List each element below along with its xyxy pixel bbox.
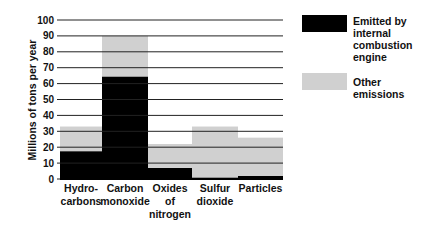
y-tick-label: 20 xyxy=(43,142,55,153)
bars-group xyxy=(60,36,283,179)
x-category-label: of xyxy=(165,195,175,207)
legend-swatch-other xyxy=(302,73,347,90)
x-category-label: monoxide xyxy=(100,195,150,207)
x-category-label: Particles xyxy=(239,182,283,194)
legend-swatch-engine xyxy=(302,15,347,32)
legend: Emitted by internal combustion engine Ot… xyxy=(302,15,432,110)
x-category-label: Hydro- xyxy=(64,182,98,194)
x-category-label: Sulfur xyxy=(200,182,230,194)
x-category-label: carbons xyxy=(61,195,102,207)
y-tick-label: 40 xyxy=(43,110,55,121)
bar-segment xyxy=(60,151,102,179)
legend-item-engine: Emitted by internal combustion engine xyxy=(302,15,432,63)
bar-segment xyxy=(148,168,192,179)
y-tick-label: 0 xyxy=(48,174,54,185)
x-category-label: Oxides xyxy=(152,182,187,194)
bar-segment xyxy=(192,127,238,178)
y-tick-label: 80 xyxy=(43,46,55,57)
y-axis-label: Millions of tons per year xyxy=(26,40,38,161)
y-tick-label: 50 xyxy=(43,94,55,105)
x-axis-categories: Hydro-carbonsCarbonmonoxideOxidesofnitro… xyxy=(61,182,283,220)
y-tick-label: 90 xyxy=(43,30,55,41)
bar-segment xyxy=(102,76,148,179)
x-category-label: dioxide xyxy=(197,195,234,207)
y-tick-label: 10 xyxy=(43,158,55,169)
legend-item-other: Other emissions xyxy=(302,73,432,100)
legend-label-engine: Emitted by internal combustion engine xyxy=(353,15,413,63)
y-tick-label: 60 xyxy=(43,78,55,89)
x-category-label: nitrogen xyxy=(149,208,191,220)
x-category-label: Carbon xyxy=(107,182,144,194)
y-tick-label: 30 xyxy=(43,126,55,137)
bar-segment xyxy=(102,36,148,77)
y-tick-label: 100 xyxy=(37,15,54,26)
y-tick-label: 70 xyxy=(43,62,55,73)
bar-segment xyxy=(238,138,283,176)
legend-label-other: Other emissions xyxy=(353,73,432,100)
y-axis-ticks: 0102030405060708090100 xyxy=(37,15,54,185)
